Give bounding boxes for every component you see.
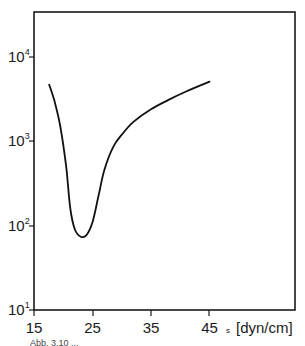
x-tick-label: 45 <box>201 319 218 336</box>
x-axis-unit: [dyn/cm] <box>236 319 293 336</box>
y-tick-label: 102 <box>8 216 30 234</box>
figure-caption: Abb. 3.10 ... <box>30 338 305 346</box>
y-tick-label: 103 <box>8 131 30 149</box>
x-tick-label: 35 <box>143 319 160 336</box>
x-axis-subscript: s <box>226 326 230 335</box>
y-tick-labels: 101102103104 <box>8 47 30 318</box>
y-tick-label: 104 <box>8 47 30 65</box>
x-tick-label: 25 <box>84 319 101 336</box>
x-tick-labels: 15253545 <box>26 319 218 336</box>
plot-frame <box>34 12 295 310</box>
data-curve <box>49 82 209 237</box>
x-tick-label: 15 <box>26 319 43 336</box>
x-axis-label: s <box>226 326 230 335</box>
chart: 101102103104 15253545 s [dyn/cm] <box>0 0 305 346</box>
y-tick-label: 101 <box>8 300 30 318</box>
x-axis <box>34 310 209 316</box>
